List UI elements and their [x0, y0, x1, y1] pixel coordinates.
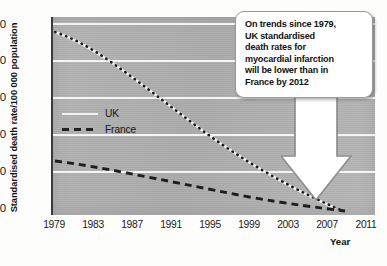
- legend-item-france: France: [62, 121, 136, 137]
- france-line-swatch-icon: [62, 125, 98, 134]
- y-tick-200: 200: [0, 18, 6, 30]
- annotation-callout: On trends since 1979, UK standardised de…: [235, 11, 373, 98]
- chart-figure: Standardised death rate/100 000 populati…: [0, 0, 387, 266]
- callout-line-6: France by 2012: [245, 77, 364, 89]
- x-tick-2007: 2007: [307, 219, 347, 230]
- x-tick-2011: 2011: [346, 219, 386, 230]
- x-tick-2003: 2003: [268, 219, 308, 230]
- y-tick-0: 0: [0, 202, 6, 214]
- callout-line-1: On trends since 1979,: [245, 19, 364, 31]
- x-tick-1999: 1999: [229, 219, 269, 230]
- legend: UK France: [62, 105, 136, 137]
- callout-line-4: myocardial infarction: [245, 54, 364, 66]
- x-tick-1983: 1983: [73, 219, 113, 230]
- y-axis-title: Standardised death rate/100 000 populati…: [8, 10, 19, 225]
- y-tick-160: 160: [0, 54, 6, 66]
- callout-line-5: will be lower than in: [245, 65, 364, 77]
- x-tick-1987: 1987: [112, 219, 152, 230]
- uk-line-swatch-icon: [62, 109, 98, 118]
- callout-line-3: death rates for: [245, 42, 364, 54]
- legend-label-uk: UK: [105, 108, 119, 119]
- arrow-svg: [281, 96, 367, 206]
- y-tick-120: 120: [0, 91, 6, 103]
- legend-label-france: France: [105, 124, 136, 135]
- x-axis-title: Year: [330, 236, 350, 247]
- x-tick-1979: 1979: [34, 219, 74, 230]
- annotation-arrow-icon: [281, 96, 367, 206]
- y-tick-80: 80: [0, 128, 6, 140]
- legend-item-uk: UK: [62, 105, 136, 121]
- y-tick-40: 40: [0, 165, 6, 177]
- x-tick-1995: 1995: [190, 219, 230, 230]
- callout-line-2: UK standardised: [245, 31, 364, 43]
- x-tick-1991: 1991: [151, 219, 191, 230]
